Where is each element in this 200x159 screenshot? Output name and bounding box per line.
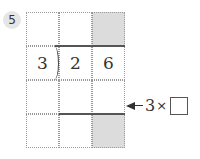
dividend-tens: 2 [59,46,92,80]
division-bar [55,45,125,47]
grid-cell[interactable] [26,114,59,148]
arrow-shaft [135,105,143,107]
grid-cell[interactable] [92,80,125,114]
grid-cell[interactable] [59,12,92,46]
answer-box[interactable] [170,97,188,115]
problem-number-badge: 5 [3,11,21,29]
grid-cell[interactable] [26,12,59,46]
hint-factor: 3 [145,96,155,115]
grid-cell[interactable] [59,80,92,114]
shaded-cell [92,114,125,148]
subtraction-line [59,113,125,115]
grid-cell[interactable] [26,80,59,114]
shaded-cell [92,12,125,46]
long-division-grid: 3 2 6 [26,12,125,148]
dividend-ones: 6 [92,46,125,80]
arrow-left-icon [126,102,135,110]
times-sign: × [156,98,167,113]
multiplication-hint: 3 × [126,96,188,115]
grid-cell[interactable] [59,114,92,148]
